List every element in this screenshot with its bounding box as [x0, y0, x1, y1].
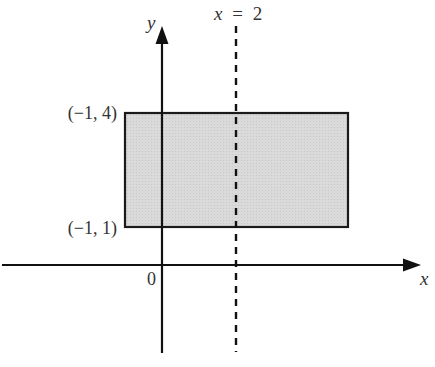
- x-axis-label: x: [419, 268, 429, 289]
- vertical-line-label-eq: =: [232, 3, 243, 24]
- corner-label-bottom-left: (−1, 1): [68, 218, 117, 239]
- origin-label: 0: [147, 269, 156, 289]
- x-axis-arrow-icon: [403, 259, 421, 272]
- vertical-line-label: x = 2: [213, 3, 262, 24]
- coordinate-plane: y x = 2 (−1, 4) (−1, 1) 0 x: [0, 0, 435, 367]
- vertical-line-label-var: x: [213, 3, 223, 24]
- corner-label-top-left: (−1, 4): [68, 103, 117, 124]
- y-axis-label: y: [145, 12, 156, 33]
- y-axis-arrow-icon: [156, 26, 169, 44]
- vertical-line-label-value: 2: [253, 3, 263, 24]
